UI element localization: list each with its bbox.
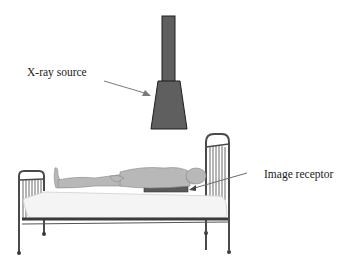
patient: [54, 168, 206, 189]
xray-source-label: X-ray source: [27, 66, 87, 78]
xray-source-arrow: [104, 81, 151, 96]
xray-tube-head: [151, 81, 187, 129]
xray-column: [162, 16, 175, 82]
image-receptor-label: Image receptor: [264, 168, 333, 180]
bed: [17, 134, 231, 255]
diagram-canvas: [0, 0, 351, 269]
